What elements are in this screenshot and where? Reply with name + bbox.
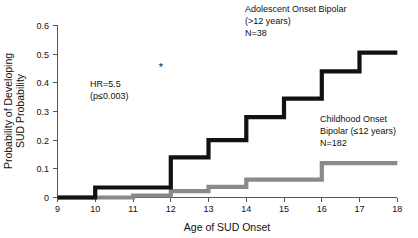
chart-plot-area: 0.6 0.5 0.4 0.3 0.2 0.1 0 9 10 11 12 [0,0,418,238]
y-axis-title-line2: SUD Probability [14,73,26,148]
childhood-group-name: Childhood Onset [320,114,388,124]
x-tick-label-16: 16 [317,204,327,214]
adolescent-group-name: Adolescent Onset Bipolar [245,4,347,14]
x-tick-label-17: 17 [354,204,364,214]
x-tick-label-11: 11 [128,204,137,214]
childhood-group-age-range: Bipolar (≤12 years) [320,126,396,136]
y-tick-label-0.5: 0.5 [36,50,49,60]
y-tick-label-0.4: 0.4 [36,78,49,88]
x-tick-label-13: 13 [203,204,213,214]
x-tick-label-14: 14 [241,204,251,214]
x-tick-label-9: 9 [55,204,60,214]
survival-curve-figure: 0.6 0.5 0.4 0.3 0.2 0.1 0 9 10 11 12 [0,0,418,238]
hazard-ratio-value: HR=5.5 [90,79,121,89]
childhood-group-sample-size: N=182 [320,138,347,148]
hazard-ratio-annotation: HR=5.5 (p≤0.003) [90,79,128,101]
x-tick-label-12: 12 [166,204,176,214]
y-tick-label-0.6: 0.6 [36,21,49,31]
x-axis-tick-labels: 9 10 11 12 13 14 15 16 17 18 [55,204,402,214]
x-tick-label-18: 18 [392,204,402,214]
adolescent-group-sample-size: N=38 [245,28,267,38]
y-tick-label-0.2: 0.2 [36,136,49,146]
childhood-group-annotation: Childhood Onset Bipolar (≤12 years) N=18… [320,114,396,148]
adolescent-group-annotation: Adolescent Onset Bipolar (>12 years) N=3… [245,4,347,38]
x-tick-label-10: 10 [90,204,100,214]
y-tick-label-0.1: 0.1 [36,164,49,174]
y-tick-label-0: 0 [44,193,49,203]
y-axis-tick-labels: 0.6 0.5 0.4 0.3 0.2 0.1 0 [36,21,49,203]
hazard-ratio-pvalue: (p≤0.003) [90,91,128,101]
significance-star-icon: * [159,61,164,73]
x-axis-title: Age of SUD Onset [184,221,270,233]
y-tick-label-0.3: 0.3 [36,107,49,117]
y-axis-title-line1: Probability of Developing [2,53,14,169]
y-axis-ticks [53,26,58,198]
x-tick-label-15: 15 [279,204,289,214]
childhood-onset-step-curve [58,163,398,197]
adolescent-group-age-range: (>12 years) [245,16,291,26]
